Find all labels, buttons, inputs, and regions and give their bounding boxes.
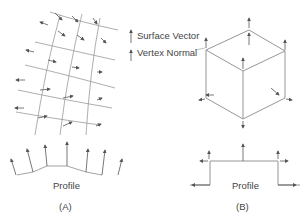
profile-a: [11, 142, 122, 175]
profile-b-label: Profile: [232, 180, 259, 191]
profile-b: [190, 144, 300, 185]
curved-surface-grid: [16, 12, 118, 135]
cube-vectors: [199, 18, 292, 128]
caption-b: (B): [236, 201, 249, 212]
caption-a: (A): [59, 201, 72, 212]
cube-wireframe: [206, 30, 285, 119]
legend-surface-vector-label: Surface Vector: [137, 30, 199, 41]
profile-a-label: Profile: [53, 180, 80, 191]
legend-vertex-normal-label: Vertex Normal: [137, 47, 197, 58]
